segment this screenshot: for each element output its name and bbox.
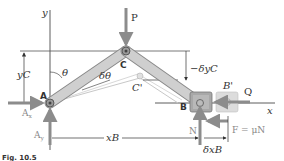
force-ax-label: Ax xyxy=(21,108,33,119)
delta-theta-label: δθ xyxy=(99,70,111,81)
delta-yc-label: −δyC xyxy=(190,63,218,74)
friction-label: F = μN xyxy=(232,125,265,135)
pin-a-center xyxy=(49,102,52,105)
point-c-label: C xyxy=(120,60,127,70)
point-a-label: A xyxy=(40,91,47,101)
yc-label: yC xyxy=(16,69,31,80)
c-prime-label: C' xyxy=(132,82,142,93)
x-axis-label: x xyxy=(267,105,273,116)
mechanism-diagram: y x yC −δyC C' B' θ δθ A C B P Q xyxy=(0,0,284,161)
theta-arc xyxy=(50,72,62,78)
delta-xb-label: δxB xyxy=(203,144,222,155)
figure-caption: Fig. 10.5 xyxy=(2,154,37,161)
pin-b xyxy=(197,100,204,107)
pin-c-center xyxy=(125,50,128,53)
force-n-label: N xyxy=(189,126,197,136)
force-p-label: P xyxy=(131,12,138,23)
point-b-label: B xyxy=(180,102,187,112)
b-prime-label: B' xyxy=(222,80,233,91)
force-ay-label: Ay xyxy=(33,130,45,142)
theta-label: θ xyxy=(62,67,68,78)
c-prime-pin xyxy=(137,73,143,79)
force-q-label: Q xyxy=(244,86,252,97)
y-axis-label: y xyxy=(41,7,48,18)
xb-label: xB xyxy=(106,132,119,143)
